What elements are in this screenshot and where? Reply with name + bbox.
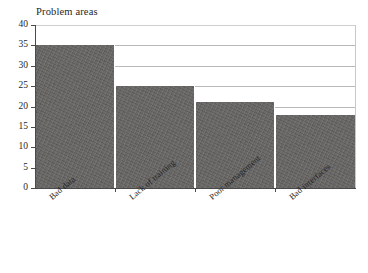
- y-tick-label: 15: [4, 122, 28, 132]
- y-tick-label: 25: [4, 81, 28, 91]
- bar[interactable]: [35, 45, 115, 188]
- plot-area: [35, 25, 355, 188]
- y-tick-0: [31, 188, 36, 189]
- x-tick: [275, 188, 276, 192]
- x-tick: [115, 188, 116, 192]
- y-tick-label: 35: [4, 40, 28, 50]
- bar-series: [35, 25, 355, 188]
- y-tick-15: [31, 127, 36, 128]
- y-tick-5: [31, 168, 36, 169]
- y-tick-25: [31, 86, 36, 87]
- y-tick-label: 30: [4, 61, 28, 71]
- y-tick-label: 5: [4, 163, 28, 173]
- bar-slot: [115, 25, 195, 188]
- y-tick-10: [31, 147, 36, 148]
- y-tick-label: 20: [4, 102, 28, 112]
- y-tick-40: [31, 25, 36, 26]
- bar-slot: [275, 25, 355, 188]
- y-tick-30: [31, 66, 36, 67]
- bar-slot: [35, 25, 115, 188]
- plot-right-edge: [355, 25, 356, 189]
- y-tick-label: 10: [4, 142, 28, 152]
- y-tick-20: [31, 107, 36, 108]
- x-tick: [195, 188, 196, 192]
- y-tick-label: 40: [4, 20, 28, 30]
- y-tick-35: [31, 45, 36, 46]
- chart-title: Problem areas: [36, 5, 98, 18]
- bar-chart: Problem areas 0510152025303540 Bad dataL…: [0, 0, 368, 273]
- y-tick-label: 0: [4, 183, 28, 193]
- bar-slot: [195, 25, 275, 188]
